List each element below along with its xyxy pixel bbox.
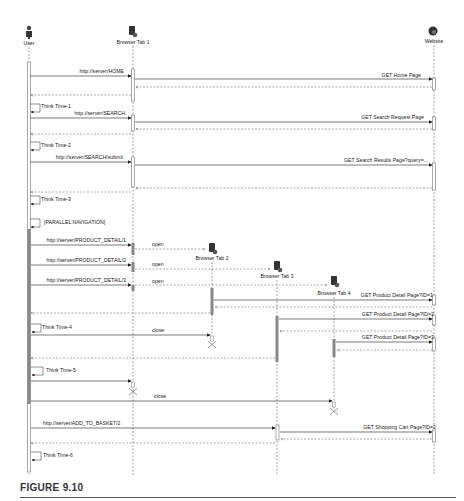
svg-text:open: open [152,278,164,284]
participant-label: Browser Tab 3 [260,273,293,279]
svg-text:close: close [154,393,166,399]
svg-text:http://server/PRODUCT_DETAIL/2: http://server/PRODUCT_DETAIL/2 [47,257,127,263]
svg-text:Think Time-2: Think Time-2 [41,142,71,148]
destroy-icon [208,341,216,348]
svg-text:GET Search Results Page?query=: GET Search Results Page?query=... [344,157,428,163]
svg-text:http://server/PRODUCT_DETAIL/1: http://server/PRODUCT_DETAIL/1 [47,237,127,243]
browser-tab-icon [331,276,339,287]
svg-text:[PARALLEL NAVIGATION]: [PARALLEL NAVIGATION] [44,219,106,225]
svg-text:close: close [152,327,164,333]
participant-label: Browser Tab 4 [317,290,350,296]
figure-caption: FIGURE 9.10 [20,482,83,493]
participant-label: Browser Tab 1 [116,39,149,45]
svg-text:Think Time-4: Think Time-4 [42,324,72,330]
think-time-1: Think Time-1 [30,103,71,112]
svg-text:GET Product Detail Page?ID=3: GET Product Detail Page?ID=3 [362,334,434,340]
parallel-navigation: [PARALLEL NAVIGATION] [30,219,106,227]
message-get-product-2: GET Product Detail Page?ID=2 [279,311,434,331]
destroy-icon [330,408,338,415]
svg-text:http://server/PRODUCT_DETAIL/3: http://server/PRODUCT_DETAIL/3 [47,277,127,283]
browser-tab-icon [209,243,217,254]
globe-icon [429,27,438,36]
svg-text:Think Time-3: Think Time-3 [41,196,71,202]
message-close-tab-1 [31,381,137,395]
message-product-detail-1: http://server/PRODUCT_DETAIL/1 open [31,237,205,249]
svg-text:open: open [152,261,164,267]
svg-text:GET Search Request Page: GET Search Request Page [361,114,424,120]
svg-text:Think Time-5: Think Time-5 [46,367,76,373]
think-time-3: Think Time-3 [30,196,71,204]
think-time-5: Think Time-5 [31,367,76,375]
message-product-detail-2: http://server/PRODUCT_DETAIL/2 open [31,257,270,269]
participant-label: User [24,40,35,46]
svg-text:GET Product Detail Page?ID=2: GET Product Detail Page?ID=2 [362,311,434,317]
svg-text:open: open [152,241,164,247]
svg-text:http://server/SEARCH: http://server/SEARCH [75,110,126,116]
svg-text:Think Time-1: Think Time-1 [41,103,71,109]
svg-text:http://server/HOME: http://server/HOME [80,68,125,74]
message-search-submit: http://server/SEARCH/submit GET Search R… [30,154,432,192]
message-search: http://server/SEARCH GET Search Request … [30,110,432,134]
participant-label: Browser Tab 2 [195,255,228,261]
sequence-diagram: User Browser Tab 1 Website Browser Tab 2… [0,0,464,501]
participant-browser-tab-3: Browser Tab 3 [260,261,293,475]
svg-text:GET Shopping Cart Page?ID=2: GET Shopping Cart Page?ID=2 [363,424,436,430]
svg-text:GET Product Detail Page?ID=1: GET Product Detail Page?ID=1 [361,292,433,298]
svg-text:GET Home Page: GET Home Page [382,72,422,78]
user-icon [26,26,32,39]
browser-tab-icon [274,261,282,272]
svg-text:http://server/ADD_TO_BASKET/2: http://server/ADD_TO_BASKET/2 [43,420,121,426]
message-close-tab-2: close [31,327,216,348]
message-close-tab-4: close [31,393,338,415]
message-home: http://server/HOME GET Home Page [30,68,432,95]
message-add-to-basket: http://server/ADD_TO_BASKET/2 GET Shoppi… [31,420,436,443]
browser-tab-icon [129,26,137,37]
message-get-product-3: GET Product Detail Page?ID=3 [336,334,434,350]
caption-rule [20,497,456,498]
participant-label: Website [425,38,444,44]
participant-website: Website [425,27,444,476]
think-time-4: Think Time-4 [31,324,72,332]
svg-text:Think Time-6: Think Time-6 [43,452,73,458]
think-time-6: Think Time-6 [31,452,73,460]
message-get-product-1: GET Product Detail Page?ID=1 [31,292,433,313]
svg-text:http://server/SEARCH/submit: http://server/SEARCH/submit [56,154,124,160]
think-time-2: Think Time-2 [30,142,71,150]
